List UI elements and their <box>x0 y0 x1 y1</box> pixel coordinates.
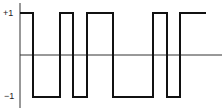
y-tick-plus-one: +1 <box>3 9 13 18</box>
y-tick-minus-one: −1 <box>4 92 14 101</box>
square-wave-chart <box>0 0 222 110</box>
